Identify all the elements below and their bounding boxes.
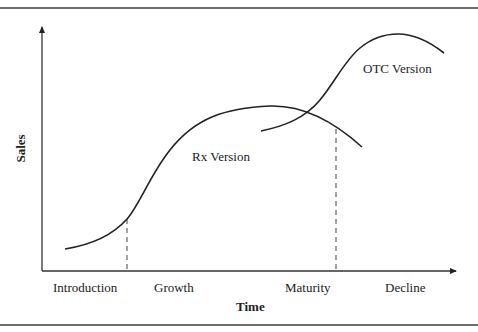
phase-introduction-label: Introduction xyxy=(53,281,117,294)
y-axis-title: Sales xyxy=(14,131,27,167)
phase-maturity-label: Maturity xyxy=(285,281,331,294)
otc-version-curve xyxy=(261,34,444,131)
product-life-cycle-diagram: Rx Version OTC Version Introduction Grow… xyxy=(0,0,478,332)
rx-version-curve xyxy=(65,106,362,249)
phase-growth-label: Growth xyxy=(154,281,194,294)
x-axis-title: Time xyxy=(236,300,265,313)
otc-version-label: OTC Version xyxy=(363,62,432,75)
rx-version-label: Rx Version xyxy=(192,150,250,163)
phase-decline-label: Decline xyxy=(385,281,425,294)
